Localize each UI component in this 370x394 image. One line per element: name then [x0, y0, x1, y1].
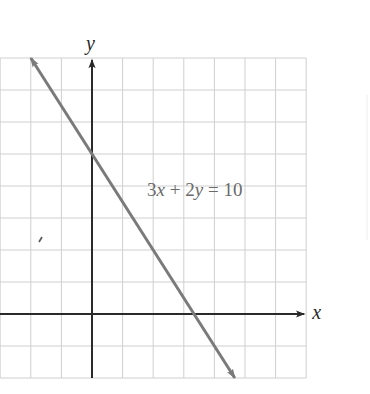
- x-axis-label: x: [311, 301, 321, 323]
- y-axis-label: y: [84, 32, 95, 55]
- equation-rhs: 10: [223, 179, 242, 200]
- graph-svg: x y 3x + 2y = 10: [0, 0, 370, 394]
- equation-equals: =: [203, 179, 223, 200]
- equation-coef-x: 3: [147, 179, 157, 200]
- equation-label: 3x + 2y = 10: [147, 179, 242, 200]
- grid-lines: [0, 58, 306, 378]
- equation-plus: +: [165, 179, 185, 200]
- stray-mark: [39, 237, 42, 242]
- equation-coef-y: 2: [185, 179, 195, 200]
- coordinate-plane-figure: x y 3x + 2y = 10: [0, 0, 370, 394]
- equation-var-y: y: [193, 179, 204, 200]
